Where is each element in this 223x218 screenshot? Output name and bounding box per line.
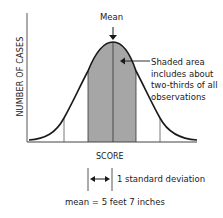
sd-arrow-left-icon — [90, 176, 95, 182]
annotation-line: Shaded area — [151, 57, 218, 69]
y-axis-label: NUMBER OF CASES — [16, 22, 25, 132]
normal-curve-diagram — [0, 0, 223, 218]
annotation-line: two-thirds of all — [151, 80, 218, 92]
annotation-line: observations — [151, 92, 218, 104]
x-axis-label: SCORE — [96, 151, 124, 162]
mean-label: Mean — [100, 12, 123, 23]
sd-legend-label: 1 standard deviation — [117, 174, 205, 185]
mean-value-footer: mean = 5 feet 7 inches — [65, 197, 165, 208]
sd-arrow-right-icon — [105, 176, 110, 182]
shaded-area-annotation: Shaded area includes about two-thirds of… — [151, 57, 218, 103]
annotation-line: includes about — [151, 69, 218, 81]
mean-arrow-icon — [109, 35, 117, 40]
